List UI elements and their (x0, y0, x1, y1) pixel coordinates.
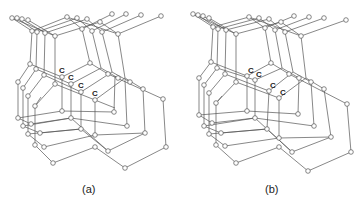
atom-label-c3: C (270, 82, 276, 90)
atom-label-c4: C (280, 89, 286, 97)
atom-label-c4: C (92, 90, 98, 98)
atom-label-c2: C (256, 71, 262, 79)
atom-label-c1: C (248, 67, 254, 75)
panel-a: C C C C (a) (0, 0, 181, 207)
atoms (191, 12, 354, 174)
atom-label-c1: C (59, 67, 65, 75)
atoms (10, 12, 169, 171)
panel-caption-a: (a) (82, 183, 95, 195)
panel-caption-b: (b) (265, 183, 278, 195)
atom-label-c2: C (68, 74, 74, 82)
panel-b: C C C C (b) (181, 0, 363, 207)
atom-label-c3: C (78, 82, 84, 90)
lattice-diagram-b (181, 0, 363, 207)
lattice-diagram-a (0, 0, 181, 207)
